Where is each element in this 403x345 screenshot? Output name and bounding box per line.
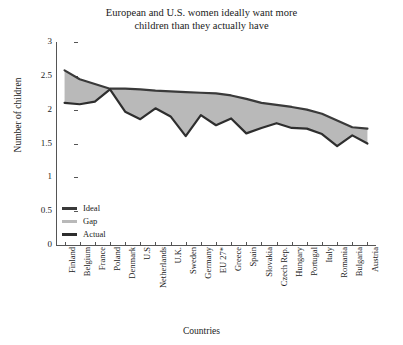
y-tick-label: 3 (26, 37, 52, 46)
x-tick-label: Hungary (295, 247, 304, 277)
x-tick-label: Greece (234, 247, 243, 271)
x-tick-label: Sweden (189, 247, 198, 274)
x-tick-mark (352, 242, 353, 246)
x-tick-label: Netherlands (159, 247, 168, 288)
x-tick-mark (367, 242, 368, 246)
x-tick-mark (277, 242, 278, 246)
x-tick-mark (246, 242, 247, 246)
x-tick-label: Czech Rep. (280, 247, 289, 286)
x-tick-mark (95, 242, 96, 246)
y-axis-ticks: 00.511.522.53 (22, 0, 52, 345)
legend-label: Gap (83, 215, 97, 228)
legend-swatch (62, 207, 77, 210)
x-tick-label: Austria (371, 247, 380, 272)
x-tick-mark (337, 242, 338, 246)
x-tick-mark (307, 242, 308, 246)
x-tick-label: Slovakia (265, 247, 274, 277)
x-tick-label: Poland (113, 247, 122, 271)
legend-label: Actual (83, 228, 106, 241)
x-tick-mark (231, 242, 232, 246)
legend-swatch (62, 233, 77, 236)
x-tick-mark (216, 242, 217, 246)
y-tick-label: 2.5 (26, 71, 52, 80)
x-tick-label: Bulgaria (355, 247, 364, 276)
chart-title: European and U.S. women ideally want mor… (0, 6, 403, 32)
x-tick-label: France (98, 247, 107, 270)
y-tick-label: 0.5 (26, 206, 52, 215)
x-tick-label: Romania (340, 247, 349, 278)
legend-item: Ideal (62, 202, 106, 215)
x-tick-mark (140, 242, 141, 246)
x-tick-mark (110, 242, 111, 246)
x-tick-label: Portugal (310, 247, 319, 276)
x-tick-mark (125, 242, 126, 246)
x-tick-label: U.S (143, 247, 152, 260)
x-tick-mark (292, 242, 293, 246)
x-tick-mark (65, 242, 66, 246)
x-tick-mark (171, 242, 172, 246)
chart-figure: European and U.S. women ideally want mor… (0, 0, 403, 345)
x-axis-label: Countries (0, 326, 403, 336)
x-tick-mark (261, 242, 262, 246)
y-tick-label: 1 (26, 172, 52, 181)
x-tick-mark (322, 242, 323, 246)
x-tick-label: Denmark (128, 247, 137, 279)
y-tick-label: 0 (26, 240, 52, 249)
x-tick-mark (155, 242, 156, 246)
legend-label: Ideal (83, 202, 100, 215)
x-tick-mark (186, 242, 187, 246)
x-tick-mark (201, 242, 202, 246)
x-tick-mark (80, 242, 81, 246)
x-tick-label: Germany (204, 247, 213, 279)
legend-item: Actual (62, 228, 106, 241)
x-tick-label: Spain (249, 247, 258, 266)
x-tick-label: Italy (325, 247, 334, 263)
x-tick-label: EU 27* (219, 247, 228, 273)
legend-swatch (62, 220, 77, 223)
x-tick-label: Finland (68, 247, 77, 273)
x-tick-label: U.K. (174, 247, 183, 264)
legend-item: Gap (62, 215, 106, 228)
chart-legend: IdealGapActual (62, 202, 106, 241)
y-tick-label: 1.5 (26, 139, 52, 148)
x-tick-label: Belgium (83, 247, 92, 276)
y-tick-label: 2 (26, 105, 52, 114)
